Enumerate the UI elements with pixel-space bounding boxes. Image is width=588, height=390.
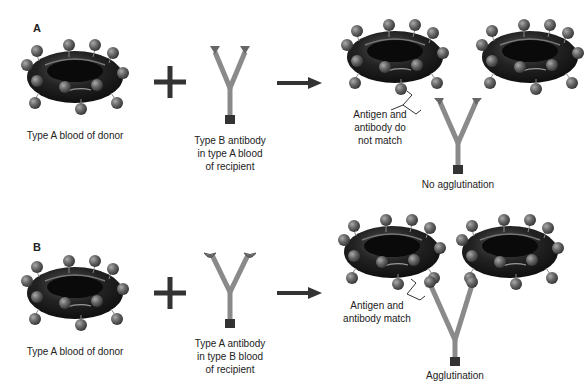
match-label-a-line1: Antigen and: [345, 108, 415, 121]
donor-caption-b: Type A blood of donor: [10, 345, 140, 358]
antibody-caption-b: Type A antibody in type B blood of recip…: [180, 337, 280, 376]
diagram-graphics: [0, 0, 588, 390]
match-label-a: Antigen and antibody do not match: [345, 108, 415, 147]
result-caption-a: No agglutination: [400, 178, 516, 191]
antibody-caption-a-line3: of recipient: [180, 160, 280, 173]
match-label-a-line3: not match: [345, 134, 415, 147]
match-label-b: Antigen and antibody match: [332, 299, 422, 325]
panel-letter-a: A: [33, 22, 41, 34]
donor-cell-a: [21, 39, 129, 115]
antibody-caption-a: Type B antibody in type A blood of recip…: [180, 134, 280, 173]
match-label-b-line2: antibody match: [332, 312, 422, 325]
antibody-a: [204, 253, 256, 328]
antibody-caption-a-line2: in type A blood: [180, 147, 280, 160]
panel-a-graphics: [21, 19, 584, 174]
antibody-b: [210, 46, 250, 124]
panel-b-graphics: [21, 214, 564, 366]
antibody-caption-b-line1: Type A antibody: [180, 337, 280, 350]
result-cell-a2: [476, 19, 584, 95]
antibody-caption-b-line2: in type B blood: [180, 350, 280, 363]
result-cell-a1: [341, 19, 449, 95]
result-caption-b: Agglutination: [405, 369, 505, 382]
antibody-caption-b-line3: of recipient: [180, 363, 280, 376]
match-label-a-line2: antibody do: [345, 121, 415, 134]
donor-cell-b: [21, 255, 129, 331]
donor-caption-a: Type A blood of donor: [10, 129, 140, 142]
match-label-b-line1: Antigen and: [332, 299, 422, 312]
antibody-caption-a-line1: Type B antibody: [180, 134, 280, 147]
panel-letter-b: B: [33, 241, 41, 253]
